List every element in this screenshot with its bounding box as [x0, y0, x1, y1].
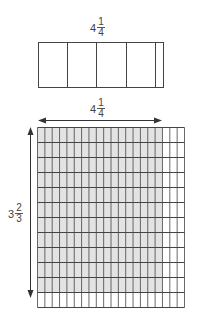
top-bar: [39, 43, 164, 88]
shaded-region: [38, 128, 163, 293]
height-arrow: [28, 127, 34, 298]
width-arrow: [38, 118, 162, 124]
diagram-canvas: [0, 0, 197, 323]
area-model-grid: [38, 128, 185, 308]
